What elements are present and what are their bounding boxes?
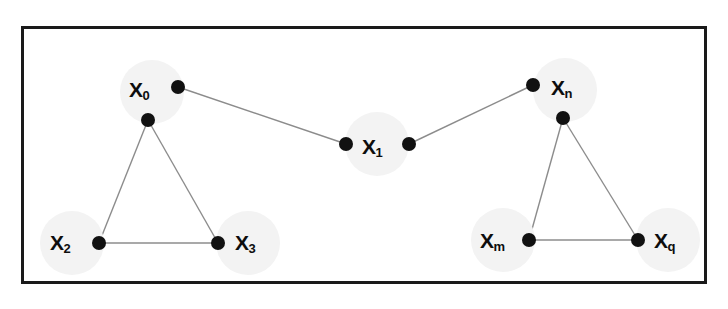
node-label-base-x3: X xyxy=(235,231,249,254)
node-label-x3: X3 xyxy=(235,232,255,253)
vertex-dot-x1-right xyxy=(402,137,416,151)
edge-x0-x2 xyxy=(99,120,148,243)
node-label-base-x2: X xyxy=(50,231,64,254)
node-label-xq: Xq xyxy=(654,230,675,251)
node-label-base-xn: X xyxy=(551,76,565,99)
node-label-base-x0: X xyxy=(129,78,143,101)
node-label-subscript-x0: 0 xyxy=(143,88,150,103)
node-label-base-x1: X xyxy=(362,135,376,158)
node-label-base-xq: X xyxy=(654,229,668,252)
node-label-xm: Xm xyxy=(480,230,505,251)
vertex-dot-x0-bottom xyxy=(141,113,155,127)
node-label-subscript-xm: m xyxy=(494,239,505,254)
vertex-dot-xn-left xyxy=(526,78,540,92)
node-label-subscript-xq: q xyxy=(668,239,675,254)
edges-group xyxy=(99,85,638,243)
node-label-xn: Xn xyxy=(551,77,572,98)
diagram-canvas: X0X1XnX2X3XmXq xyxy=(0,0,728,309)
edge-x0-x3 xyxy=(148,120,218,243)
node-label-x1: X1 xyxy=(362,136,382,157)
node-label-subscript-x3: 3 xyxy=(249,241,256,256)
vertex-dot-x2-right xyxy=(92,236,106,250)
node-label-x0: X0 xyxy=(129,79,149,100)
edge-xn-xq xyxy=(563,118,638,240)
vertex-dot-x1-left xyxy=(339,137,353,151)
node-label-subscript-x2: 2 xyxy=(64,241,71,256)
vertex-dot-xm-right xyxy=(522,233,536,247)
vertex-dot-xn-bottom xyxy=(556,111,570,125)
node-label-subscript-xn: n xyxy=(565,86,572,101)
edge-x1-xn xyxy=(409,85,533,144)
node-label-subscript-x1: 1 xyxy=(376,145,383,160)
vertex-dot-xq-left xyxy=(631,233,645,247)
vertex-dot-x0-right xyxy=(171,80,185,94)
edge-x0-x1 xyxy=(178,87,346,144)
vertex-dot-x3-left xyxy=(211,236,225,250)
node-label-x2: X2 xyxy=(50,232,70,253)
edge-xn-xm xyxy=(529,118,563,240)
node-label-base-xm: X xyxy=(480,229,494,252)
